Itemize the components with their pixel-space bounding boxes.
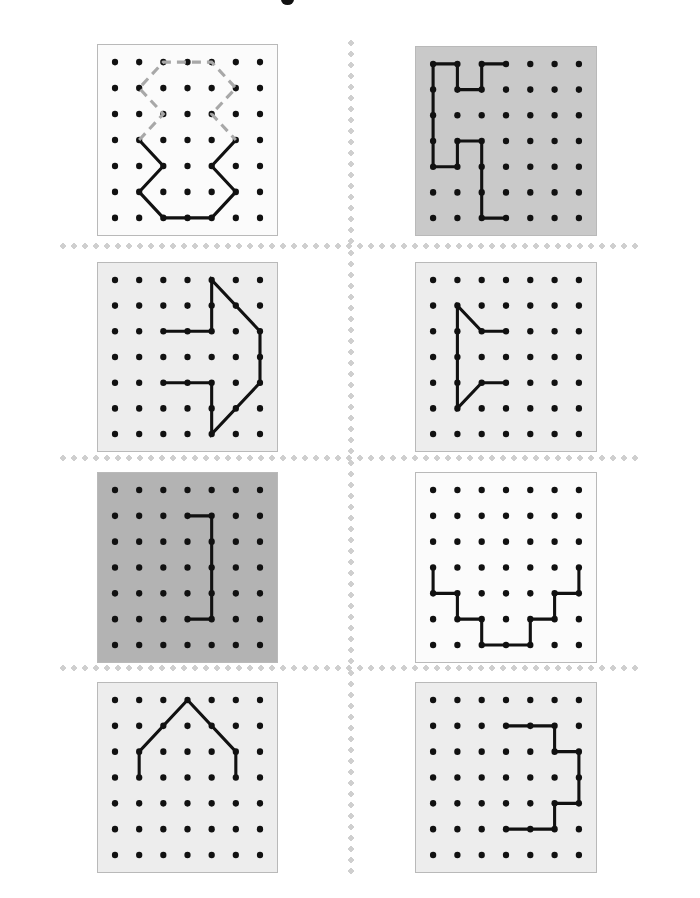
peg <box>503 189 509 196</box>
peg <box>527 379 533 386</box>
peg <box>527 189 533 196</box>
peg <box>454 112 460 119</box>
peg <box>430 642 436 649</box>
peg <box>257 277 263 284</box>
peg <box>430 826 436 833</box>
peg <box>503 800 509 807</box>
peg <box>527 590 533 597</box>
peg <box>160 642 166 649</box>
peg <box>257 616 263 623</box>
peg <box>527 163 533 170</box>
peg <box>503 513 509 520</box>
peg <box>454 487 460 494</box>
peg <box>160 302 166 309</box>
peg <box>551 61 557 68</box>
peg <box>136 513 142 520</box>
peg <box>184 538 190 545</box>
peg <box>527 61 533 68</box>
peg <box>503 697 509 704</box>
peg <box>160 405 166 412</box>
peg <box>209 354 215 361</box>
peg <box>454 564 460 571</box>
peg <box>454 852 460 859</box>
peg <box>184 852 190 859</box>
peg <box>454 774 460 781</box>
peg <box>257 590 263 597</box>
peg <box>503 774 509 781</box>
peg <box>576 513 582 520</box>
peg <box>233 487 239 494</box>
peg <box>184 302 190 309</box>
panel-4-canvas <box>416 263 596 451</box>
worksheet-stage <box>0 0 700 898</box>
peg <box>257 302 263 309</box>
peg <box>112 697 118 704</box>
peg <box>257 826 263 833</box>
peg <box>479 405 485 412</box>
peg <box>551 538 557 545</box>
panel-5-solid-bracket <box>188 516 212 619</box>
peg <box>209 852 215 859</box>
peg <box>503 487 509 494</box>
peg-grid <box>112 59 263 221</box>
peg <box>184 590 190 597</box>
peg <box>430 723 436 730</box>
peg <box>454 826 460 833</box>
peg <box>136 379 142 386</box>
panel-4 <box>415 262 597 452</box>
peg <box>551 487 557 494</box>
panel-1-solid-lower-shape <box>139 140 236 218</box>
peg <box>454 800 460 807</box>
peg <box>136 354 142 361</box>
panel-1-canvas <box>98 45 277 235</box>
peg <box>576 697 582 704</box>
peg <box>551 112 557 119</box>
peg <box>184 826 190 833</box>
peg <box>454 642 460 649</box>
peg <box>112 189 118 196</box>
peg <box>527 86 533 93</box>
peg <box>257 85 263 92</box>
peg <box>527 328 533 335</box>
peg <box>257 748 263 755</box>
peg <box>257 852 263 859</box>
peg <box>527 852 533 859</box>
peg <box>160 697 166 704</box>
peg <box>160 852 166 859</box>
peg <box>160 590 166 597</box>
peg <box>112 826 118 833</box>
peg <box>184 774 190 781</box>
peg <box>257 431 263 438</box>
peg <box>479 697 485 704</box>
peg <box>136 111 142 118</box>
peg <box>257 215 263 222</box>
peg <box>233 538 239 545</box>
panel-8 <box>415 682 597 873</box>
peg <box>233 697 239 704</box>
peg <box>576 852 582 859</box>
peg <box>160 564 166 571</box>
peg <box>551 189 557 196</box>
peg <box>576 189 582 196</box>
peg <box>527 538 533 545</box>
peg <box>112 564 118 571</box>
peg <box>527 354 533 361</box>
peg <box>576 379 582 386</box>
peg <box>527 215 533 222</box>
page-top-mark <box>281 0 294 5</box>
peg <box>160 277 166 284</box>
peg <box>527 138 533 145</box>
peg <box>503 431 509 438</box>
peg <box>112 379 118 386</box>
peg <box>112 302 118 309</box>
panel-8-canvas <box>416 683 596 872</box>
peg <box>233 590 239 597</box>
peg <box>257 800 263 807</box>
peg <box>112 328 118 335</box>
peg <box>551 302 557 309</box>
peg <box>233 379 239 386</box>
peg <box>257 189 263 196</box>
peg <box>209 697 215 704</box>
panel-7 <box>97 682 278 873</box>
peg <box>160 189 166 196</box>
